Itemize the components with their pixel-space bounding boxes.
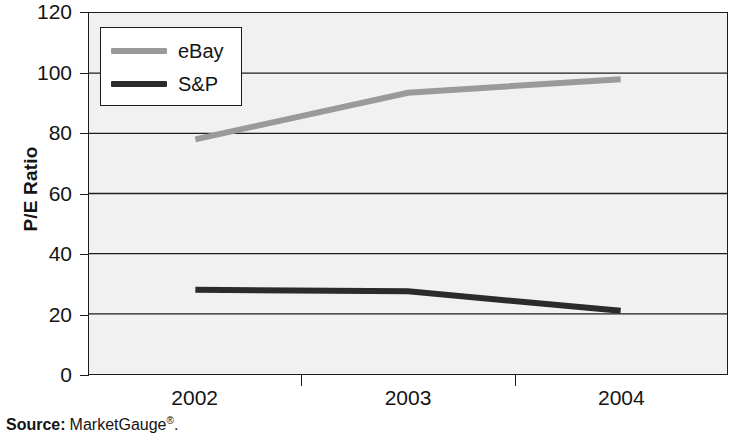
y-tick-label: 40	[16, 243, 72, 264]
y-tick-mark	[80, 375, 89, 376]
y-tick-mark	[80, 194, 89, 195]
source-label: Source:	[6, 416, 66, 433]
y-tick-label: 80	[16, 122, 72, 143]
chart-figure: P/E Ratio 020406080100120 eBayS&P 200220…	[0, 0, 735, 439]
legend-swatch-icon	[111, 48, 167, 54]
y-tick-label: 100	[16, 62, 72, 83]
legend-label: eBay	[178, 41, 224, 61]
y-tick-mark	[80, 315, 89, 316]
legend-label: S&P	[178, 74, 218, 94]
series-line-ebay	[195, 79, 620, 139]
y-tick-mark	[80, 12, 89, 13]
legend-item-s-p[interactable]: S&P	[101, 68, 241, 100]
x-tick-mark	[301, 375, 302, 386]
legend-item-ebay[interactable]: eBay	[101, 35, 241, 67]
legend-swatch-icon	[111, 81, 167, 87]
y-tick-label: 60	[16, 183, 72, 204]
y-tick-mark	[80, 133, 89, 134]
y-tick-label: 20	[16, 304, 72, 325]
y-tick-label: 0	[16, 364, 72, 385]
series-line-s-p	[195, 290, 620, 311]
x-tick-label: 2004	[515, 386, 728, 409]
y-tick-label: 120	[16, 1, 72, 22]
x-tick-label: 2003	[301, 386, 514, 409]
y-tick-mark	[80, 254, 89, 255]
source-note: Source:MarketGauge®.	[6, 415, 178, 434]
x-tick-mark	[515, 375, 516, 386]
y-axis-tick-labels: 020406080100120	[10, 0, 72, 439]
registered-trademark-icon: ®	[167, 415, 174, 426]
x-axis: 200220032004	[88, 375, 728, 412]
x-tick-label: 2002	[88, 386, 301, 409]
y-tick-mark	[80, 73, 89, 74]
source-value: MarketGauge®.	[70, 416, 179, 433]
chart-legend: eBayS&P	[100, 27, 242, 106]
